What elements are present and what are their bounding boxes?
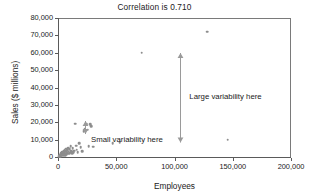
data-point [78, 142, 81, 145]
large-variability-arrow-icon [175, 52, 186, 143]
x-tick-label: 50,000 [90, 163, 142, 171]
data-point [75, 145, 78, 148]
data-point [79, 146, 82, 149]
large-variability-label: Large variability here [189, 92, 261, 101]
y-tick-mark [55, 53, 58, 54]
x-tick-mark [116, 158, 117, 161]
data-point [92, 145, 95, 148]
x-tick-label: 200,000 [265, 163, 309, 171]
scatter-chart: Correlation is 0.710 Sales ($ millions) … [0, 0, 309, 196]
x-tick-mark [233, 158, 234, 161]
data-point [87, 145, 90, 148]
data-point [206, 31, 209, 34]
y-tick-mark [55, 35, 58, 36]
data-point [226, 138, 229, 141]
small-variability-arrow-icon [80, 120, 91, 135]
x-axis-title: Employees [58, 181, 291, 191]
x-tick-mark [175, 158, 176, 161]
y-tick-mark [55, 70, 58, 71]
data-point [141, 51, 144, 54]
y-tick-mark [55, 122, 58, 123]
y-tick-label: 50,000 [2, 66, 53, 74]
y-tick-label: 20,000 [2, 118, 53, 126]
y-tick-mark [55, 18, 58, 19]
x-tick-label: 100,000 [149, 163, 201, 171]
y-tick-label: 70,000 [2, 31, 53, 39]
chart-title: Correlation is 0.710 [0, 2, 309, 12]
data-point [74, 122, 77, 125]
y-axis-line [58, 18, 59, 158]
x-tick-mark [291, 158, 292, 161]
y-tick-mark [55, 88, 58, 89]
x-tick-mark [58, 158, 59, 161]
y-tick-label: 10,000 [2, 136, 53, 144]
y-tick-mark [55, 140, 58, 141]
data-point [77, 151, 80, 154]
y-tick-label: 0 [2, 153, 53, 161]
x-tick-label: 150,000 [207, 163, 259, 171]
y-tick-label: 40,000 [2, 84, 53, 92]
y-tick-mark [55, 105, 58, 106]
y-tick-label: 30,000 [2, 101, 53, 109]
data-point [81, 150, 84, 153]
y-tick-label: 60,000 [2, 49, 53, 57]
small-variability-label: Small variability here [91, 135, 163, 144]
x-tick-label: 0 [32, 163, 84, 171]
y-tick-label: 80,000 [2, 14, 53, 22]
